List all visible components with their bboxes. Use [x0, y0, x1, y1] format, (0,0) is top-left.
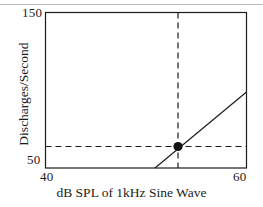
y-axis-title: Discharges/Second	[16, 42, 31, 145]
x-axis-title: dB SPL of 1kHz Sine Wave	[0, 186, 263, 200]
plot-frame	[46, 13, 247, 169]
y-axis-tick-label-150: 150	[22, 6, 42, 19]
chart-figure: 150 50 40 60 dB SPL of 1kHz Sine Wave Di…	[0, 0, 263, 207]
chart-screenshot: 150 50 40 60 dB SPL of 1kHz Sine Wave Di…	[0, 0, 263, 207]
operating-point-marker	[173, 142, 182, 151]
y-axis-title-container: Discharges/Second	[14, 24, 32, 164]
x-axis-tick-label-40: 40	[40, 170, 53, 183]
rate-level-function-line	[155, 92, 247, 168]
x-axis-tick-label-60: 60	[233, 170, 246, 183]
